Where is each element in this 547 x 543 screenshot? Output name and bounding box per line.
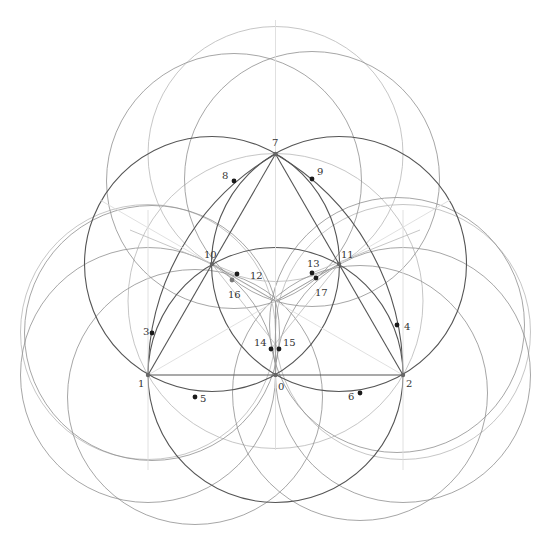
point-4: 4	[395, 321, 411, 332]
point-marker	[269, 347, 274, 352]
point-marker	[310, 177, 315, 182]
point-10: 10	[204, 249, 217, 266]
point-label: 17	[315, 287, 328, 298]
point-label: 9	[317, 166, 323, 177]
point-6: 6	[348, 391, 362, 402]
line-11-centroid	[276, 264, 340, 301]
point-label: 3	[143, 326, 149, 337]
line-11-13-ext	[312, 230, 420, 273]
point-marker	[232, 179, 237, 184]
line-10-centroid	[212, 264, 276, 301]
point-marker	[358, 391, 363, 396]
point-label: 12	[250, 270, 263, 281]
point-label: 8	[222, 170, 228, 181]
point-marker	[277, 347, 282, 352]
point-marker	[401, 373, 405, 377]
point-marker	[337, 262, 341, 266]
point-label: 0	[278, 381, 284, 392]
point-marker	[310, 271, 315, 276]
point-label: 16	[228, 289, 241, 300]
point-label: 7	[272, 137, 278, 148]
point-marker	[314, 276, 319, 281]
point-label: 4	[404, 321, 410, 332]
point-marker	[210, 262, 214, 266]
line-10-12-ext	[130, 230, 237, 274]
point-label: 13	[307, 258, 320, 269]
point-marker	[273, 373, 277, 377]
median-2-10	[100, 200, 403, 375]
point-marker	[146, 373, 150, 377]
point-marker	[273, 152, 277, 156]
point-label: 5	[200, 393, 206, 404]
point-5: 5	[193, 393, 207, 404]
point-17: 17	[314, 276, 328, 298]
point-9: 9	[310, 166, 324, 181]
point-marker	[235, 272, 240, 277]
point-label: 15	[283, 337, 296, 348]
point-marker	[230, 278, 235, 283]
point-marker	[395, 323, 400, 328]
line-11-17	[271, 264, 339, 349]
point-label: 1	[138, 378, 144, 389]
diagram-canvas: 01234567891011121314151617	[0, 0, 547, 543]
point-label: 14	[254, 337, 267, 348]
point-8: 8	[222, 170, 236, 183]
point-label: 11	[341, 249, 354, 260]
point-marker	[150, 331, 155, 336]
point-marker	[193, 395, 198, 400]
point-label: 10	[204, 249, 217, 260]
point-label: 6	[348, 391, 354, 402]
construction-lines	[100, 20, 450, 470]
geometry-diagram: 01234567891011121314151617	[0, 0, 547, 543]
point-label: 2	[406, 378, 412, 389]
